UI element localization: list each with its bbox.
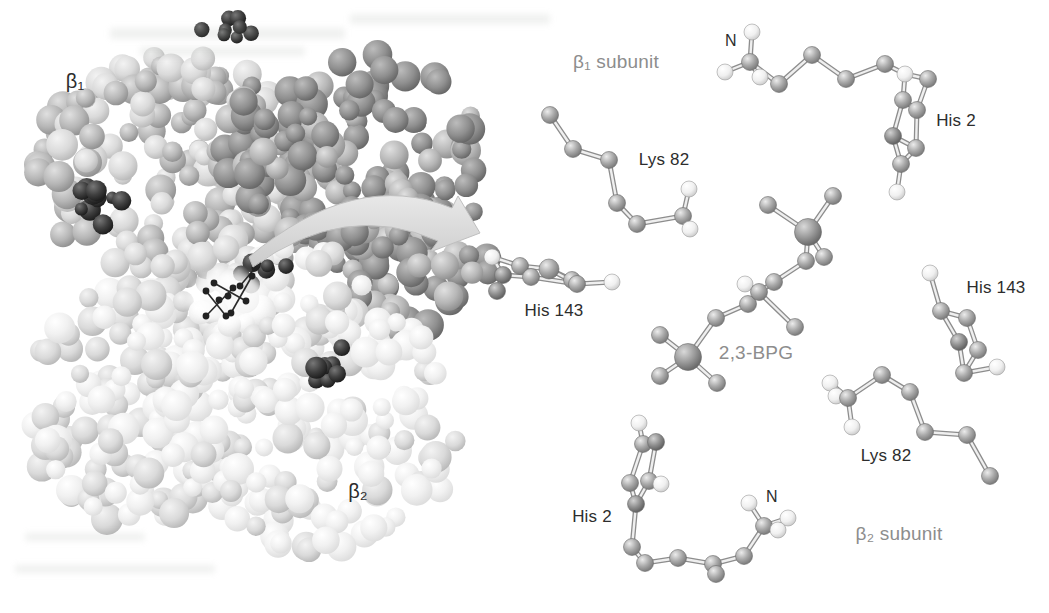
page-bleedthrough — [140, 47, 305, 56]
beta1-lys82-molecule — [542, 107, 699, 238]
page-bleedthrough — [110, 28, 345, 39]
beta2-his143-molecule — [922, 265, 1005, 382]
molecular-artwork — [0, 0, 1049, 613]
ball-and-stick-detail — [484, 24, 1005, 583]
page-bleedthrough — [350, 14, 550, 24]
beta2-lys82-molecule — [822, 367, 999, 485]
page-bleedthrough — [15, 565, 215, 573]
figure-root: β₁ β₂ β₁ subunit N His 2 Lys 82 His 143 … — [0, 0, 1049, 613]
page-bleedthrough — [25, 533, 145, 541]
beta2-his2-molecule — [622, 415, 797, 583]
beta1-nterm-his2-molecule — [717, 24, 937, 200]
beta1-his143-molecule — [484, 249, 620, 300]
